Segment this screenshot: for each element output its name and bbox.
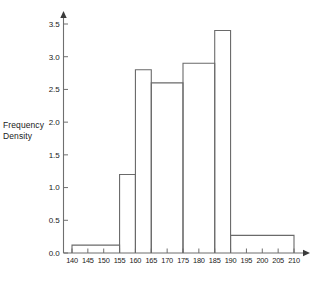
histogram-chart: Frequency Density 0.00.51.01.52.02.53.03… bbox=[0, 0, 321, 282]
x-tick-label: 160 bbox=[130, 256, 142, 265]
x-tick-label: 175 bbox=[177, 256, 189, 265]
x-tick-label: 170 bbox=[161, 256, 173, 265]
x-tick-label: 195 bbox=[241, 256, 253, 265]
y-tick-label: 2.5 bbox=[49, 85, 60, 94]
x-tick-label: 200 bbox=[256, 256, 268, 265]
histogram-bar bbox=[151, 83, 183, 253]
y-tick-label: 3.0 bbox=[49, 53, 60, 62]
x-tick-label: 140 bbox=[66, 256, 78, 265]
histogram-bar bbox=[72, 245, 120, 253]
histogram-bar bbox=[120, 174, 136, 253]
y-tick-label: 3.5 bbox=[49, 20, 60, 29]
x-tick-label: 165 bbox=[145, 256, 157, 265]
x-tick-label: 190 bbox=[225, 256, 237, 265]
x-tick-label: 145 bbox=[82, 256, 94, 265]
x-tick-label: 180 bbox=[193, 256, 205, 265]
x-axis-arrow-icon bbox=[303, 250, 310, 256]
y-axis-arrow-icon bbox=[60, 11, 66, 18]
x-tick-label: 205 bbox=[272, 256, 284, 265]
histogram-bar bbox=[183, 63, 215, 253]
x-tick-label: 210 bbox=[288, 256, 300, 265]
x-tick-label: 155 bbox=[114, 256, 126, 265]
y-tick-label: 0.0 bbox=[49, 249, 60, 258]
y-tick-label: 0.5 bbox=[49, 216, 60, 225]
y-axis: 0.00.51.01.52.02.53.03.5 bbox=[49, 11, 68, 258]
y-tick-label: 1.0 bbox=[49, 183, 60, 192]
x-axis: 1401451501551601651701751801851901952002… bbox=[64, 249, 311, 265]
y-tick-label: 1.5 bbox=[49, 151, 60, 160]
y-tick-label: 2.0 bbox=[49, 118, 60, 127]
plot-area: 0.00.51.01.52.02.53.03.5 140145150155160… bbox=[0, 0, 321, 282]
histogram-bar bbox=[135, 70, 151, 253]
x-tick-label: 150 bbox=[98, 256, 110, 265]
x-tick-label: 185 bbox=[209, 256, 221, 265]
histogram-bar bbox=[215, 31, 231, 253]
histogram-bars bbox=[72, 31, 294, 253]
